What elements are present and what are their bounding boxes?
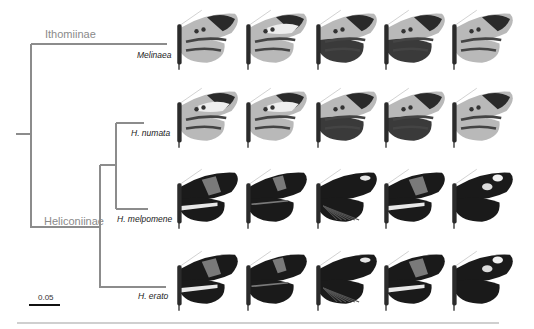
butterfly-image xyxy=(379,245,449,321)
taxon-label-h-erato: H. erato xyxy=(138,291,168,301)
butterfly-image xyxy=(172,4,242,80)
butterfly-image xyxy=(447,245,517,321)
taxon-label-h-numata: H. numata xyxy=(131,128,170,138)
butterfly-image xyxy=(241,245,311,321)
taxon-label-melinaea: Melinaea xyxy=(137,50,172,60)
clade-label-ithomiinae: Ithomiinae xyxy=(45,28,96,40)
clade-label-heliconiinae: Heliconiinae xyxy=(44,215,104,227)
butterfly-image xyxy=(172,163,242,239)
butterfly-image xyxy=(172,245,242,321)
butterfly-image xyxy=(241,163,311,239)
butterfly-image xyxy=(241,82,311,158)
butterfly-image xyxy=(311,245,381,321)
butterfly-image xyxy=(311,4,381,80)
butterfly-image xyxy=(172,82,242,158)
butterfly-image xyxy=(447,163,517,239)
butterfly-image xyxy=(379,82,449,158)
scale-bar-label: 0.05 xyxy=(38,293,54,302)
butterfly-image xyxy=(379,4,449,80)
butterfly-image xyxy=(447,4,517,80)
butterfly-image xyxy=(311,82,381,158)
divider xyxy=(17,322,499,324)
butterfly-image xyxy=(379,163,449,239)
butterfly-image xyxy=(311,163,381,239)
butterfly-image xyxy=(241,4,311,80)
taxon-label-h-melpomene: H. melpomene xyxy=(117,214,172,224)
butterfly-image xyxy=(447,82,517,158)
